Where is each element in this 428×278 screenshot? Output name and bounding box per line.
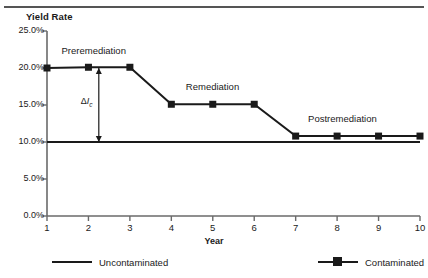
y-tick-label: 25.0%	[0, 25, 44, 35]
x-tick-label: 8	[327, 222, 347, 233]
data-point-marker	[85, 64, 92, 71]
series-markers-contaminated	[44, 64, 424, 140]
data-point-marker	[209, 101, 216, 108]
legend-item-uncontaminated: Uncontaminated	[52, 252, 168, 272]
x-tick-label: 4	[161, 222, 181, 233]
x-tick-label: 7	[286, 222, 306, 233]
legend-swatch-line-icon	[52, 257, 92, 267]
x-tick-label: 1	[37, 222, 57, 233]
y-tick-label: 10.0%	[0, 136, 44, 146]
y-tick-label: 20.0%	[0, 62, 44, 72]
y-tick-label: 5.0%	[0, 173, 44, 183]
data-point-marker	[44, 65, 51, 72]
data-point-marker	[334, 133, 341, 140]
legend-label-contaminated: Contaminated	[365, 257, 424, 268]
data-point-marker	[417, 133, 424, 140]
legend-label-uncontaminated: Uncontaminated	[99, 257, 168, 268]
data-point-marker	[168, 101, 175, 108]
y-tick-label: 0.0%	[0, 210, 44, 220]
y-tick-label: 15.0%	[0, 99, 44, 109]
x-tick-label: 6	[244, 222, 264, 233]
x-axis-title: Year	[0, 236, 428, 246]
x-tick-label: 3	[120, 222, 140, 233]
delta-arrow-annotation	[96, 68, 102, 142]
x-tick-label: 2	[78, 222, 98, 233]
legend-swatch-line-square-icon	[318, 257, 358, 267]
data-point-marker	[126, 64, 133, 71]
series-line-contaminated	[47, 67, 420, 136]
data-point-marker	[375, 133, 382, 140]
data-point-marker	[251, 101, 258, 108]
annotation-preremediation: Preremediation	[62, 45, 126, 56]
annotation-delta-ic: ΔIc	[81, 96, 93, 108]
annotation-remediation: Remediation	[186, 81, 239, 92]
chart-figure: Yield Rate 25.0%20.0%15.0%10.0%5.0%0.0% …	[0, 0, 428, 278]
legend-item-contaminated: Contaminated	[318, 252, 424, 272]
x-tick-label: 5	[203, 222, 223, 233]
data-point-marker	[292, 133, 299, 140]
x-tick-label: 9	[369, 222, 389, 233]
x-tick-label: 10	[410, 222, 428, 233]
annotation-postremediation: Postremediation	[308, 113, 377, 124]
